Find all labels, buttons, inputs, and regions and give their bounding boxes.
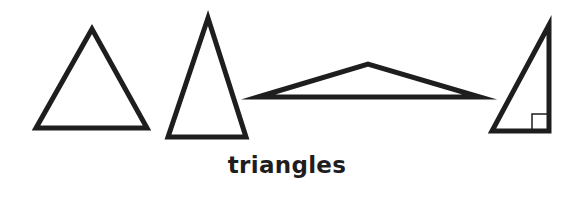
- diagram-caption: triangles: [0, 152, 574, 178]
- triangles-diagram: triangles: [0, 0, 574, 200]
- isosceles-triangle: [168, 18, 246, 137]
- right-triangle: [492, 25, 549, 131]
- equilateral-triangle: [36, 29, 147, 128]
- obtuse-triangle: [258, 64, 480, 97]
